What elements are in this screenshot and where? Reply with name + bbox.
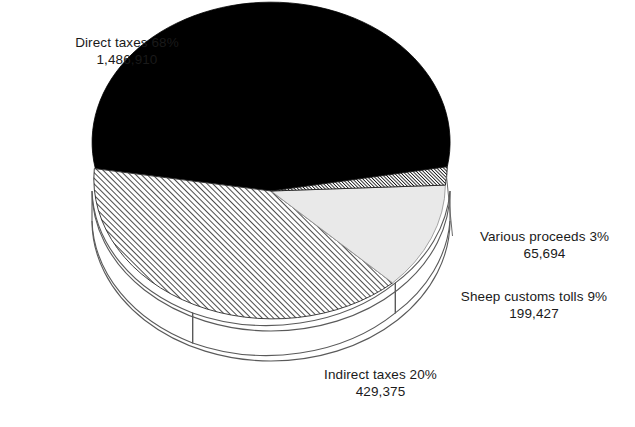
label-direct-taxes-line1: Direct taxes 68%	[22, 34, 232, 51]
label-various-proceeds-line1: Various proceeds 3%	[457, 228, 632, 245]
label-sheep-customs-tolls: Sheep customs tolls 9% 199,427	[434, 288, 634, 322]
label-various-proceeds: Various proceeds 3% 65,694	[457, 228, 632, 262]
label-indirect-taxes-line2: 429,375	[288, 383, 473, 400]
pie-chart: Direct taxes 68% 1,486,910 Various proce…	[0, 0, 635, 427]
label-direct-taxes-line2: 1,486,910	[22, 51, 232, 68]
label-indirect-taxes-line1: Indirect taxes 20%	[288, 366, 473, 383]
label-various-proceeds-line2: 65,694	[457, 245, 632, 262]
label-indirect-taxes: Indirect taxes 20% 429,375	[288, 366, 473, 400]
pie-slice-direct-taxes[interactable]	[92, 2, 450, 191]
label-sheep-customs-tolls-line2: 199,427	[434, 305, 634, 322]
label-direct-taxes: Direct taxes 68% 1,486,910	[22, 34, 232, 68]
label-sheep-customs-tolls-line1: Sheep customs tolls 9%	[434, 288, 634, 305]
